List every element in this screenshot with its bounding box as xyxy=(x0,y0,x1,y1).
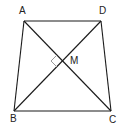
trapezoid-figure xyxy=(0,0,121,128)
diagonal-BD xyxy=(14,21,101,111)
right-angle-marker xyxy=(51,55,57,67)
label-A: A xyxy=(19,6,26,16)
label-B: B xyxy=(10,114,17,124)
geometry-diagram: A D B C M xyxy=(0,0,121,128)
side-DC xyxy=(101,21,111,111)
label-D: D xyxy=(99,6,106,16)
diagonal-AC xyxy=(24,21,111,111)
side-BA xyxy=(14,21,24,111)
label-C: C xyxy=(109,115,116,125)
label-M: M xyxy=(70,56,78,66)
